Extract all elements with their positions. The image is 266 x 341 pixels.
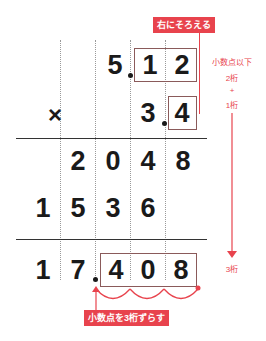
shift-decimal-label: 小数点を3桁ずらす xyxy=(84,310,169,326)
annotation-arrows xyxy=(0,0,266,341)
arrowhead-icon xyxy=(227,251,237,258)
